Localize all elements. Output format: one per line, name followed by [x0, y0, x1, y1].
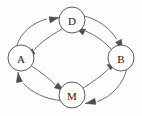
node-b[interactable]: B	[108, 45, 134, 71]
graph-canvas: D A B M	[0, 0, 142, 116]
node-label-a: A	[17, 53, 25, 65]
edge-m-to-b[interactable]	[83, 69, 109, 89]
edge-a-to-m[interactable]	[31, 66, 55, 85]
edge-m-to-a[interactable]	[24, 84, 61, 101]
edge-d-to-a[interactable]	[35, 29, 62, 50]
graph-diagram: D A B M	[0, 0, 142, 116]
node-label-d: D	[68, 15, 76, 27]
edge-b-to-d[interactable]	[86, 31, 113, 50]
node-label-b: B	[117, 53, 124, 65]
node-m[interactable]: M	[59, 82, 85, 108]
node-d[interactable]: D	[59, 7, 85, 33]
edge-d-to-b[interactable]	[84, 16, 117, 39]
edge-a-to-d[interactable]	[17, 19, 47, 46]
node-label-m: M	[67, 90, 77, 102]
node-a[interactable]: A	[8, 45, 34, 71]
